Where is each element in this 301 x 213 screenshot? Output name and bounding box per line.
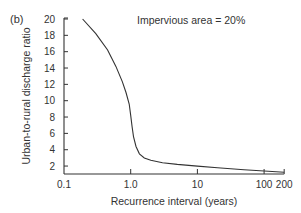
- x-tick-label: 0.1: [57, 179, 71, 190]
- y-tick-label: 8: [49, 112, 55, 123]
- y-tick-label: 10: [44, 95, 56, 106]
- axes: [64, 18, 284, 174]
- svg-text:Urban-to-rural discharge ratio: Urban-to-rural discharge ratio: [20, 27, 32, 164]
- chart: (b) Urban-to-rural discharge ratio Imper…: [0, 0, 301, 213]
- data-curve: [83, 19, 285, 172]
- y-tick-label: 14: [44, 63, 56, 74]
- x-tick-label: 1.0: [124, 179, 138, 190]
- y-tick-label: 4: [49, 144, 55, 155]
- y-tick-label: 20: [44, 14, 56, 25]
- x-tick-label: 100: [256, 179, 273, 190]
- x-tick-label: 200: [276, 179, 293, 190]
- x-tick-label: 10: [192, 179, 204, 190]
- x-axis-ticks: 0.11.010100200: [57, 169, 293, 190]
- x-axis-title: Recurrence interval (years): [111, 195, 238, 207]
- y-axis-title: Urban-to-rural discharge ratio: [20, 27, 32, 164]
- y-tick-label: 2: [49, 161, 55, 172]
- y-tick-label: 12: [44, 79, 56, 90]
- y-tick-label: 18: [44, 30, 56, 41]
- annotation-text: Impervious area = 20%: [137, 14, 245, 26]
- panel-label: (b): [10, 13, 23, 25]
- y-tick-label: 6: [49, 128, 55, 139]
- y-tick-label: 16: [44, 46, 56, 57]
